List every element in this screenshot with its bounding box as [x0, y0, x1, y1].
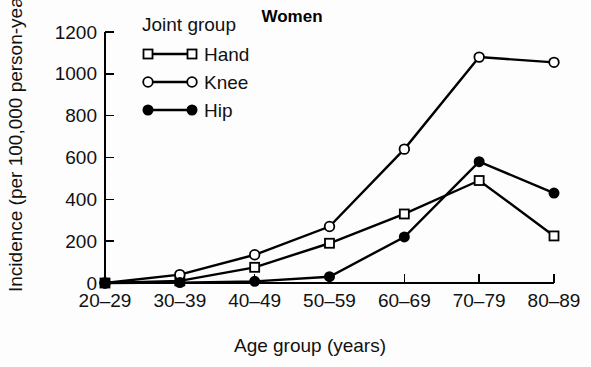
y-tick-label: 1000 — [55, 63, 97, 84]
data-point-hand-5 — [475, 176, 484, 185]
chart-legend: Joint group HandKneeHip — [142, 14, 249, 121]
data-point-hip-1 — [175, 278, 184, 287]
y-axis-tick-labels: 020040060080010001200 — [55, 22, 97, 294]
legend-entry-knee[interactable]: Knee — [143, 72, 248, 93]
legend-label-hip: Hip — [204, 100, 233, 121]
x-axis-tick-labels: 20–2930–3940–4950–5960–6970–7980–89 — [79, 290, 581, 311]
y-axis: 020040060080010001200 — [55, 22, 114, 294]
y-tick-label: 200 — [65, 231, 97, 252]
data-point-hip-3 — [325, 272, 334, 281]
y-tick-label: 1200 — [55, 22, 97, 43]
data-point-hip-2 — [250, 277, 259, 286]
legend-entry-hand[interactable]: Hand — [144, 44, 250, 65]
y-tick-label: 800 — [65, 105, 97, 126]
series-line-knee — [105, 57, 554, 283]
data-point-knee-3 — [325, 222, 335, 232]
data-point-hip-0 — [100, 278, 109, 287]
data-point-knee-4 — [400, 144, 410, 154]
x-tick-label: 60–69 — [378, 290, 431, 311]
x-tick-label: 80–89 — [528, 290, 581, 311]
legend-title: Joint group — [142, 14, 236, 35]
data-point-hand-3 — [325, 239, 334, 248]
chart-figure: 020040060080010001200 20–2930–3940–4950–… — [0, 0, 591, 367]
legend-marker-hip — [143, 105, 152, 114]
series-knee — [100, 52, 559, 288]
legend-label-knee: Knee — [204, 72, 248, 93]
chart-title: Women — [261, 7, 322, 26]
plot-series-group — [100, 52, 559, 288]
x-tick-label: 20–29 — [79, 290, 132, 311]
data-point-knee-5 — [474, 52, 484, 62]
x-tick-label: 40–49 — [228, 290, 281, 311]
data-point-knee-2 — [250, 250, 260, 260]
x-tick-label: 50–59 — [303, 290, 356, 311]
legend-entry-hip[interactable]: Hip — [143, 100, 232, 121]
x-tick-label: 30–39 — [153, 290, 206, 311]
legend-marker-end-hand — [188, 50, 197, 59]
legend-entries: HandKneeHip — [143, 44, 249, 121]
legend-marker-hand — [144, 50, 153, 59]
legend-marker-end-hip — [187, 105, 196, 114]
legend-label-hand: Hand — [204, 44, 249, 65]
data-point-hip-6 — [549, 188, 558, 197]
legend-marker-knee — [143, 77, 153, 87]
data-point-hand-6 — [550, 231, 559, 240]
x-axis-title: Age group (years) — [234, 335, 386, 356]
legend-marker-end-knee — [187, 77, 197, 87]
y-tick-label: 600 — [65, 147, 97, 168]
data-point-hip-5 — [475, 157, 484, 166]
y-axis-tick-marks — [105, 32, 114, 283]
x-tick-label: 70–79 — [453, 290, 506, 311]
data-point-hand-4 — [400, 209, 409, 218]
y-axis-title: Incidence (per 100,000 person-years) — [5, 0, 26, 292]
data-point-hand-2 — [250, 263, 259, 272]
incidence-line-chart: 020040060080010001200 20–2930–3940–4950–… — [0, 0, 591, 367]
data-point-knee-6 — [549, 58, 559, 68]
data-point-hip-4 — [400, 232, 409, 241]
y-tick-label: 400 — [65, 189, 97, 210]
